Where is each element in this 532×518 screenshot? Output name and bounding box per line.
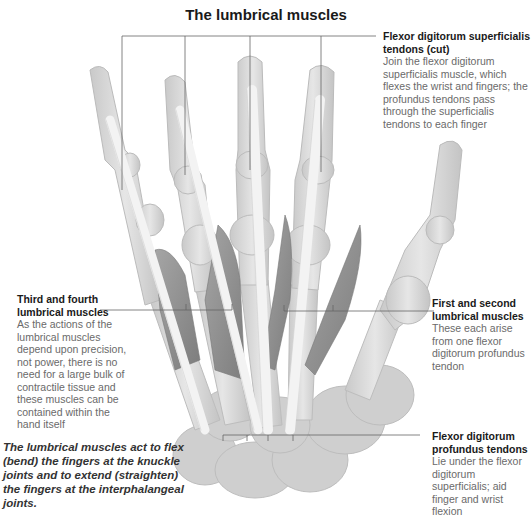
label-fdp-tendons: Flexor digitorum profundus tendons Lie u… [432,430,532,518]
label-heading: Flexor digitorum profundus tendons [432,430,532,455]
label-first-second-lumbricals: First and second lumbrical muscles These… [432,297,532,372]
label-heading: Third and fourth lumbrical muscles [17,293,127,318]
caption: The lumbrical muscles act to flex (bend)… [3,440,193,510]
label-third-fourth-lumbricals: Third and fourth lumbrical muscles As th… [17,293,127,431]
label-body: As the actions of the lumbrical muscles … [17,318,127,431]
diagram-title: The lumbrical muscles [0,6,532,23]
label-body: Lie under the flexor digitorum superfici… [432,455,532,518]
label-body: Join the flexor digitorum superficialis … [383,55,531,130]
label-heading: First and second lumbrical muscles [432,297,532,322]
label-heading: Flexor digitorum superficialis tendons (… [383,30,531,55]
label-fds-tendons: Flexor digitorum superficialis tendons (… [383,30,531,130]
label-body: These each arise from one flexor digitor… [432,322,532,372]
